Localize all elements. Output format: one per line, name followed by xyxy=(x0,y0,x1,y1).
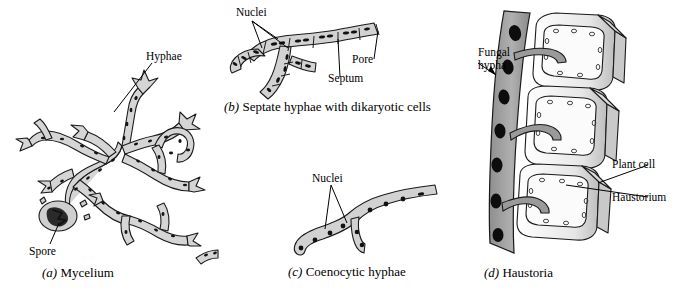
panel-b-caption: (b) Septate hyphae with dikaryotic cells xyxy=(224,100,431,114)
panel-b-label-pore: Pore xyxy=(352,53,373,66)
panel-c-caption: (c) Coenocytic hyphae xyxy=(288,265,406,279)
panel-d-caption: (d) Haustoria xyxy=(484,266,553,280)
panel-b-septate-hyphae-artwork xyxy=(228,12,428,107)
panel-d-label-plant-cell: Plant cell xyxy=(612,158,655,171)
panel-c-label-nuclei: Nuclei xyxy=(312,172,343,185)
panel-b-label-septum: Septum xyxy=(328,72,363,85)
panel-c-letter: (c) xyxy=(288,264,302,279)
panel-a-label-hyphae: Hyphae xyxy=(146,50,182,63)
panel-d-haustoria-artwork xyxy=(470,5,670,267)
panel-a-caption: (a) Mycelium xyxy=(42,266,114,280)
panel-a-label-spore: Spore xyxy=(29,245,56,258)
panel-d-letter: (d) xyxy=(484,265,499,280)
panel-a-caption-text: Mycelium xyxy=(60,265,113,280)
panel-b-letter: (b) xyxy=(224,99,239,114)
panel-d-label-fungal-hypha-line2: hypha xyxy=(478,59,510,72)
panel-b-caption-text: Septate hyphae with dikaryotic cells xyxy=(242,99,430,114)
panel-d-caption-text: Haustoria xyxy=(502,265,553,280)
panel-c-coenocytic-hyphae-artwork xyxy=(285,183,465,263)
fungal-structures-figure: Hyphae Spore (a) Mycelium xyxy=(0,0,690,292)
panel-b-label-nuclei: Nuclei xyxy=(236,6,267,19)
panel-c-caption-text: Coenocytic hyphae xyxy=(306,264,406,279)
panel-d-label-haustorium: Haustorium xyxy=(612,191,666,204)
panel-a-letter: (a) xyxy=(42,265,57,280)
panel-d-label-fungal-hypha: Fungal hypha xyxy=(478,46,510,71)
panel-d-label-fungal-hypha-line1: Fungal xyxy=(478,46,510,59)
